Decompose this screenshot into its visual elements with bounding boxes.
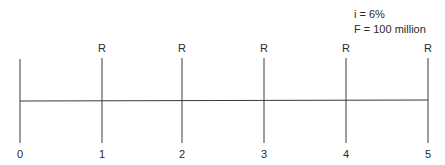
period-label-5: 5 — [425, 148, 431, 160]
period-label-1: 1 — [99, 148, 105, 160]
payment-label-5: R — [424, 42, 432, 54]
payment-label-1: R — [98, 42, 106, 54]
interest-rate-label: i = 6% — [354, 8, 385, 21]
cash-flow-diagram: i = 6% F = 100 million R R R R R 0 1 2 3… — [0, 0, 445, 165]
future-value-label: F = 100 million — [354, 23, 426, 36]
period-label-3: 3 — [261, 148, 267, 160]
payment-label-4: R — [342, 42, 350, 54]
period-label-2: 2 — [179, 148, 185, 160]
timeline-axis — [20, 100, 428, 101]
payment-label-2: R — [178, 42, 186, 54]
period-label-4: 4 — [343, 148, 349, 160]
period-label-0: 0 — [17, 148, 23, 160]
payment-label-3: R — [260, 42, 268, 54]
